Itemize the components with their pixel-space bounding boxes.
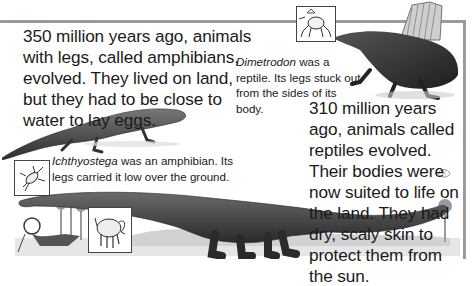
reptiles-paragraph: 310 million years ago, animals called re… bbox=[309, 98, 469, 286]
ichthyostega-caption: Ichthyostega was an amphibian. Its legs … bbox=[52, 153, 252, 184]
dimetrodon-posture-icon bbox=[296, 6, 336, 42]
top-rule-left bbox=[0, 20, 296, 23]
ichthyostega-name: Ichthyostega bbox=[52, 154, 118, 167]
amphibians-paragraph: 350 million years ago, animals with legs… bbox=[23, 26, 253, 131]
sauropod-posture-icon bbox=[88, 207, 132, 253]
dimetrodon-name: Dimetrodon bbox=[236, 55, 296, 68]
